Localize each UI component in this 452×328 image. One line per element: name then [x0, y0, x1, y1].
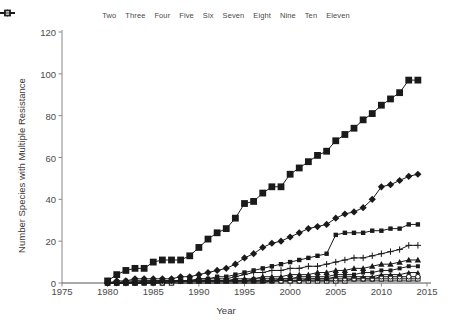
- series-two: [104, 77, 421, 285]
- chart-container: TwoThreeFourFiveSixSevenEightNineTenElev…: [0, 0, 452, 328]
- plot-area: [0, 0, 452, 328]
